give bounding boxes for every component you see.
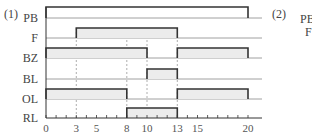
x-axis-tick-label: 5 [94, 122, 100, 134]
part-2-partial-labels: PBF [300, 12, 312, 39]
signal-label: OL [22, 92, 38, 106]
signal-row-bz: BZ [23, 48, 262, 65]
x-axis-tick-label: 13 [172, 122, 184, 134]
x-axis-tick-label: 3 [74, 122, 80, 134]
signal-row-ol: OL [22, 89, 262, 106]
signal-high-fill [177, 89, 248, 99]
x-axis-tick-label: 8 [124, 122, 130, 134]
part-2-signal-label: PB [300, 12, 312, 26]
part-2-label: (2) [272, 7, 286, 21]
signal-row-bl: BL [23, 69, 262, 86]
part-1-label: (1) [4, 7, 18, 21]
signal-high-pulse [46, 7, 248, 18]
signal-high-fill [46, 48, 147, 58]
signal-label: RL [23, 111, 38, 125]
signal-row-f: F [31, 28, 262, 45]
x-axis-tick-label: 20 [243, 122, 255, 134]
signal-high-fill [127, 108, 178, 118]
x-axis-tick-label: 15 [192, 122, 204, 134]
signal-label: BZ [23, 51, 38, 65]
signal-high-fill [46, 89, 127, 99]
x-axis-tick-label: 0 [43, 122, 49, 134]
timing-diagram: PBFBZBLOLRL 035810131520 (1) (2) PBF [0, 0, 312, 137]
part-2-signal-label: F [305, 25, 312, 39]
signal-label: BL [23, 72, 38, 86]
x-axis-tick-label: 10 [142, 122, 154, 134]
signal-high-fill [76, 28, 177, 38]
signal-label: F [31, 31, 38, 45]
signal-high-fill [147, 69, 177, 79]
signal-high-fill [177, 48, 248, 58]
signal-rows: PBFBZBLOLRL [22, 7, 262, 125]
signal-row-pb: PB [23, 7, 262, 25]
signal-label: PB [23, 11, 38, 25]
